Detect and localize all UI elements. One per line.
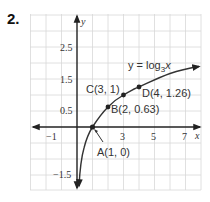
grid	[30, 14, 201, 190]
point-B	[106, 105, 111, 110]
x-tick-5: 5	[151, 131, 156, 142]
x-tick-neg1: −1	[46, 131, 57, 142]
point-A-label: A(1, 0)	[97, 146, 130, 158]
point-B-label: B(2, 0.63)	[111, 103, 159, 115]
y-axis-label: y	[80, 16, 86, 27]
point-C	[121, 93, 126, 98]
y-tick-0.5: 0.5	[60, 105, 73, 116]
x-axis-label: x	[194, 130, 200, 141]
point-D	[137, 85, 142, 90]
point-C-label: C(3, 1)	[86, 83, 120, 95]
y-tick-neg1.5: −1.5	[53, 169, 71, 180]
point-A	[90, 124, 95, 129]
axes	[33, 16, 200, 188]
log-graph: y x −1 3 5 7 2.5 1.5 0.5 −1.5 A(1, 0) B(…	[0, 0, 210, 202]
curve-equation-label: y = log3x	[128, 59, 171, 74]
y-tick-2.5: 2.5	[60, 42, 73, 53]
point-D-label: D(4, 1.26)	[142, 87, 191, 99]
x-tick-3: 3	[120, 131, 125, 142]
pointer-arrow-icon	[94, 129, 98, 133]
x-tick-7: 7	[182, 131, 187, 142]
y-tick-1.5: 1.5	[60, 74, 73, 85]
